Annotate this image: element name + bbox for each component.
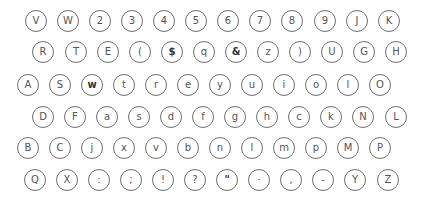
key-button[interactable]: 3 — [121, 10, 143, 32]
key-button[interactable]: ( — [129, 41, 151, 63]
key-button[interactable]: c — [288, 106, 310, 128]
key-button[interactable]: 5 — [185, 10, 207, 32]
key-button[interactable]: Q — [24, 169, 46, 191]
key-button[interactable]: 2 — [89, 10, 111, 32]
key-button[interactable]: 7 — [249, 10, 271, 32]
key-button[interactable]: w — [81, 74, 103, 96]
key-button[interactable]: & — [225, 41, 247, 63]
key-button[interactable]: o — [305, 74, 327, 96]
key-button[interactable]: k — [320, 106, 342, 128]
key-button[interactable]: K — [378, 10, 400, 32]
key-button[interactable]: L — [385, 106, 407, 128]
key-button[interactable]: X — [56, 169, 78, 191]
key-button[interactable]: R — [32, 41, 54, 63]
key-button[interactable]: y — [209, 74, 231, 96]
key-button[interactable]: F — [64, 106, 86, 128]
key-button[interactable]: Y — [344, 169, 366, 191]
key-button[interactable]: ! — [152, 169, 174, 191]
key-button[interactable]: s — [128, 106, 150, 128]
key-button[interactable]: $ — [161, 41, 183, 63]
key-button[interactable]: S — [49, 74, 71, 96]
key-button[interactable]: Z — [377, 169, 399, 191]
key-button[interactable]: E — [97, 41, 119, 63]
key-button[interactable]: l — [337, 74, 359, 96]
key-button[interactable]: g — [224, 106, 246, 128]
key-button[interactable]: O — [369, 74, 391, 96]
key-button[interactable]: W — [57, 10, 79, 32]
key-button[interactable]: 9 — [314, 10, 336, 32]
key-button[interactable]: D — [32, 106, 54, 128]
key-button[interactable]: h — [256, 106, 278, 128]
key-button[interactable]: B — [17, 137, 39, 159]
key-button[interactable]: d — [160, 106, 182, 128]
key-button[interactable]: : — [88, 169, 110, 191]
key-button[interactable]: P — [369, 137, 391, 159]
key-button[interactable]: n — [209, 137, 231, 159]
key-button[interactable]: l — [241, 137, 263, 159]
key-button[interactable]: V — [25, 10, 47, 32]
key-button[interactable]: , — [280, 169, 302, 191]
key-button[interactable]: a — [96, 106, 118, 128]
key-button[interactable]: j — [81, 137, 103, 159]
key-button[interactable]: 6 — [217, 10, 239, 32]
key-button[interactable]: t — [113, 74, 135, 96]
key-button[interactable]: m — [273, 137, 295, 159]
key-button[interactable]: · — [248, 169, 270, 191]
key-button[interactable]: C — [49, 137, 71, 159]
key-button[interactable]: M — [337, 137, 359, 159]
key-button[interactable]: 4 — [153, 10, 175, 32]
key-button[interactable]: H — [385, 41, 407, 63]
key-button[interactable]: v — [145, 137, 167, 159]
key-button[interactable]: U — [321, 41, 343, 63]
key-button[interactable]: z — [257, 41, 279, 63]
key-button[interactable]: q — [193, 41, 215, 63]
key-button[interactable]: - — [312, 169, 334, 191]
key-button[interactable]: r — [145, 74, 167, 96]
key-button[interactable]: A — [17, 74, 39, 96]
key-button[interactable]: 8 — [281, 10, 303, 32]
key-button[interactable]: ) — [289, 41, 311, 63]
key-button[interactable]: N — [352, 106, 374, 128]
key-button[interactable]: u — [241, 74, 263, 96]
key-button[interactable]: f — [192, 106, 214, 128]
key-button[interactable]: T — [65, 41, 87, 63]
key-button[interactable]: G — [353, 41, 375, 63]
key-button[interactable]: p — [305, 137, 327, 159]
key-button[interactable]: J — [346, 10, 368, 32]
key-button[interactable]: b — [177, 137, 199, 159]
key-button[interactable]: ; — [120, 169, 142, 191]
key-button[interactable]: e — [177, 74, 199, 96]
key-button[interactable]: ? — [184, 169, 206, 191]
key-button[interactable]: " — [216, 169, 238, 191]
key-button[interactable]: i — [273, 74, 295, 96]
key-button[interactable]: x — [113, 137, 135, 159]
